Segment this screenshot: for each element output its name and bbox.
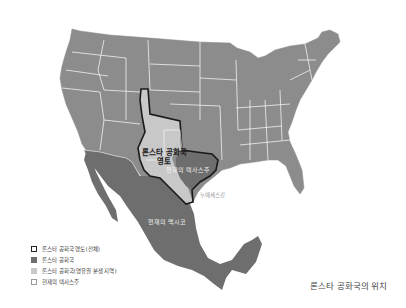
legend-item-claimed-territory: 론스타 공화국 영토(전체) [31,244,117,254]
legend-item-current-texas: 현재의 텍사스주 [31,277,117,287]
legend-label: 론스타 공화국 [42,256,74,264]
current-mexico-label: 현재의 멕시코 [148,219,186,225]
current-texas-label: 현재의 텍사스주 [166,167,210,173]
claimed-territory-label: 론스타 공화국 영토 [142,148,187,166]
legend-swatch-outline [31,246,37,252]
map-legend: 론스타 공화국 영토(전체) 론스타 공화국 론스타 공화국(영유권 분쟁 지역… [31,244,117,288]
legend-label: 현재의 텍사스주 [42,278,79,286]
legend-label: 론스타 공화국(영유권 분쟁 지역) [42,267,117,275]
nueces-river-label: 누에세스강 [200,193,225,199]
legend-label: 론스타 공화국 영토(전체) [42,245,100,253]
legend-item-disputed: 론스타 공화국(영유권 분쟁 지역) [31,266,117,276]
claimed-territory-label-line2: 영토 [142,157,187,166]
legend-swatch-dark [31,257,37,263]
claimed-territory-label-line1: 론스타 공화국 [142,148,187,157]
map-title: 론스타 공화국의 위치 [310,279,387,291]
legend-swatch-white [31,279,37,285]
legend-item-lone-star-republic: 론스타 공화국 [31,255,117,265]
legend-swatch-light [31,268,37,274]
